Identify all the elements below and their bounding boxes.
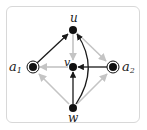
graph-diagram: u v w a1 a2 <box>0 0 147 130</box>
node-u <box>69 26 77 34</box>
node-a1 <box>27 61 39 73</box>
edge-u-a2 <box>77 33 106 61</box>
label-u: u <box>70 11 78 25</box>
label-a1: a1 <box>9 59 22 75</box>
edge-w-a1 <box>39 74 69 104</box>
edge-w-a2 <box>77 74 107 104</box>
label-w: w <box>68 111 79 125</box>
label-v: v <box>64 56 71 69</box>
label-a2: a2 <box>122 59 135 75</box>
node-a2 <box>107 61 119 73</box>
